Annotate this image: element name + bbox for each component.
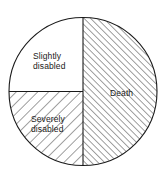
pie-slice-slightly-disabled [9, 18, 83, 92]
pie-slice-severely-disabled [9, 92, 83, 166]
pie-chart-figure: Slightly disabled Severely disabled Deat… [0, 0, 167, 184]
pie-chart-svg [0, 0, 167, 184]
pie-slice-death [83, 18, 157, 166]
